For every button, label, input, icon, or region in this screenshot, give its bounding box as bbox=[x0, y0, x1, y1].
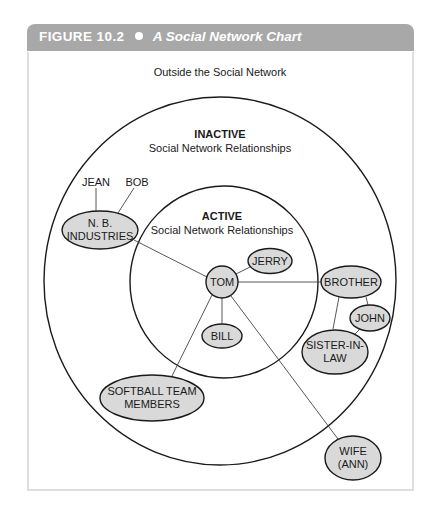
edge-tom-jerry bbox=[236, 267, 250, 274]
outside-label: Outside the Social Network bbox=[154, 66, 287, 78]
edge-bob-nb bbox=[118, 188, 134, 213]
edge-brother-sister bbox=[333, 297, 339, 329]
active-title: ACTIVE bbox=[202, 210, 242, 222]
label-nb-line1: N. B. bbox=[88, 217, 112, 229]
label-wife-line1: WIFE bbox=[339, 445, 367, 457]
label-wife-line2: (ANN) bbox=[338, 458, 369, 470]
active-subtitle: Social Network Relationships bbox=[151, 224, 294, 236]
inactive-subtitle: Social Network Relationships bbox=[149, 142, 292, 154]
label-tom: TOM bbox=[210, 276, 234, 288]
label-sister-line2: LAW bbox=[323, 352, 347, 364]
label-sister-line1: SISTER-IN- bbox=[306, 339, 364, 351]
edge-brother-john bbox=[366, 297, 368, 305]
label-jean: JEAN bbox=[82, 176, 110, 188]
label-nb-line2: INDUSTRIES bbox=[67, 230, 134, 242]
edge-nb-tom bbox=[134, 240, 207, 277]
label-brother: BROTHER bbox=[324, 276, 378, 288]
social-network-diagram: Outside the Social Network INACTIVE Soci… bbox=[0, 0, 440, 517]
inactive-title: INACTIVE bbox=[194, 128, 245, 140]
label-bob: BOB bbox=[125, 176, 148, 188]
label-bill: BILL bbox=[211, 330, 234, 342]
label-softball-line2: MEMBERS bbox=[124, 398, 180, 410]
label-john: JOHN bbox=[355, 312, 385, 324]
label-softball-line1: SOFTBALL TEAM bbox=[107, 385, 196, 397]
label-jerry: JERRY bbox=[252, 255, 289, 267]
